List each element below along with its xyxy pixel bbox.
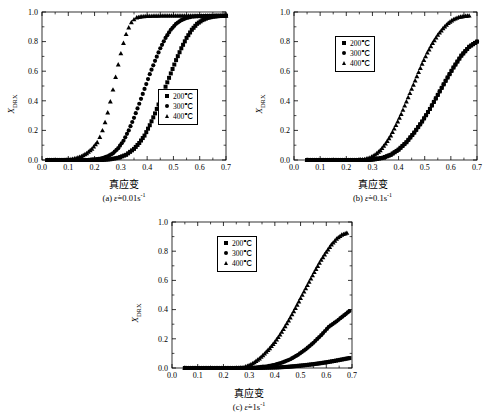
svg-text:0.4: 0.4 [270,371,280,380]
square-marker-icon [162,93,171,100]
svg-text:0.1: 0.1 [315,163,325,172]
svg-text:0.6: 0.6 [321,371,331,380]
legend-label: 200℃ [232,239,252,249]
svg-text:0.4: 0.4 [394,163,404,172]
svg-text:0.2: 0.2 [280,126,290,135]
legend-label: 200℃ [350,39,370,49]
svg-text:0.2: 0.2 [158,335,168,344]
legend-item: 200℃ [162,92,193,102]
legend-item: 200℃ [339,39,370,49]
circle-marker-icon [162,103,171,110]
caption-c: (c) ε̇=1s-1 [124,401,374,412]
chart-panel-b: 0.00.10.20.30.40.50.60.70.00.20.40.60.81… [248,0,497,208]
svg-text:0.6: 0.6 [446,163,456,172]
y-axis-label-b: XDRX [254,94,266,113]
svg-text:0.4: 0.4 [28,97,38,106]
svg-text:0.3: 0.3 [244,371,254,380]
legend-item: 400℃ [221,259,252,269]
legend-item: 300℃ [221,249,252,259]
legend-b: 200℃ 300℃ 400℃ [335,36,375,72]
circle-marker-icon [339,50,348,57]
svg-text:0.3: 0.3 [367,163,377,172]
svg-text:0.1: 0.1 [63,163,73,172]
svg-text:0.8: 0.8 [280,37,290,46]
legend-item: 400℃ [339,59,370,69]
legend-label: 400℃ [350,59,370,69]
triangle-marker-icon [221,260,230,267]
legend-label: 300℃ [173,102,193,112]
chart-panel-a: 0.00.10.20.30.40.50.60.70.00.20.40.60.81… [0,0,248,208]
legend-item: 400℃ [162,112,193,122]
svg-text:0.8: 0.8 [158,247,168,256]
svg-text:0.8: 0.8 [28,37,38,46]
legend-label: 400℃ [232,259,252,269]
chart-panel-c: 0.00.10.20.30.40.50.60.70.00.20.40.60.81… [124,208,374,418]
svg-text:0.2: 0.2 [341,163,351,172]
svg-text:0.0: 0.0 [37,163,47,172]
legend-item: 300℃ [162,102,193,112]
circle-marker-icon [221,250,230,257]
x-axis-label-c: 真应变 [124,385,374,400]
svg-text:0.3: 0.3 [116,163,126,172]
svg-text:0.4: 0.4 [280,97,290,106]
legend-c: 200℃ 300℃ 400℃ [217,236,257,272]
square-marker-icon [339,40,348,47]
svg-text:0.0: 0.0 [158,364,168,373]
y-axis-label-c: XDRX [130,303,142,322]
svg-text:0.5: 0.5 [168,163,178,172]
svg-text:0.6: 0.6 [158,276,168,285]
legend-item: 300℃ [339,49,370,59]
svg-text:0.4: 0.4 [142,163,152,172]
svg-text:0.2: 0.2 [28,126,38,135]
legend-label: 300℃ [350,49,370,59]
legend-item: 200℃ [221,239,252,249]
svg-text:0.6: 0.6 [195,163,205,172]
svg-text:0.2: 0.2 [218,371,228,380]
triangle-marker-icon [339,60,348,67]
y-axis-label-a: XDRX [6,94,18,113]
legend-label: 200℃ [173,92,193,102]
legend-label: 300℃ [232,249,252,259]
svg-text:0.1: 0.1 [193,371,203,380]
svg-text:1.0: 1.0 [158,218,168,227]
x-axis-label-b: 真应变 [248,176,497,191]
caption-b: (b) ε̇=0.1s-1 [248,192,497,203]
svg-text:0.5: 0.5 [296,371,306,380]
svg-text:1.0: 1.0 [28,8,38,17]
triangle-marker-icon [162,113,171,120]
legend-label: 400℃ [173,112,193,122]
svg-text:0.0: 0.0 [167,371,177,380]
svg-text:0.6: 0.6 [280,67,290,76]
svg-text:0.0: 0.0 [28,156,38,165]
square-marker-icon [221,240,230,247]
caption-a: (a) ε̇=0.01s-1 [0,192,248,203]
svg-text:1.0: 1.0 [280,8,290,17]
x-axis-label-a: 真应变 [0,176,248,191]
svg-text:0.5: 0.5 [420,163,430,172]
legend-a: 200℃ 300℃ 400℃ [158,89,198,125]
svg-text:0.7: 0.7 [472,163,482,172]
svg-text:0.0: 0.0 [280,156,290,165]
svg-text:0.7: 0.7 [347,371,357,380]
svg-text:0.2: 0.2 [90,163,100,172]
svg-text:0.7: 0.7 [221,163,231,172]
svg-text:0.4: 0.4 [158,305,168,314]
svg-text:0.0: 0.0 [289,163,299,172]
svg-text:0.6: 0.6 [28,67,38,76]
